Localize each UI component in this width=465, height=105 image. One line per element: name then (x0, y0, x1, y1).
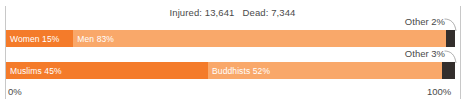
bar-segment-women[interactable]: Women 15% (6, 30, 73, 47)
axis-line-right (460, 6, 461, 99)
axis-label-max: 100% (427, 86, 451, 97)
bar-track-religion: Muslims 45% Buddhists 52% (6, 62, 455, 79)
bar-segment-buddhists[interactable]: Buddhists 52% (208, 62, 441, 79)
bar-segment-other-religion[interactable] (442, 62, 455, 79)
bar-segment-muslims[interactable]: Muslims 45% (6, 62, 208, 79)
bar-segment-men[interactable]: Men 83% (73, 30, 446, 47)
axis-line-left (5, 6, 6, 99)
bar-row-gender: Women 15% Men 83% (6, 30, 455, 47)
callout-other-gender: Other 2% (340, 16, 445, 27)
bar-row-religion: Muslims 45% Buddhists 52% (6, 62, 455, 79)
bar-segment-buddhists-label: Buddhists 52% (208, 66, 270, 76)
bar-segment-muslims-label: Muslims 45% (6, 66, 62, 76)
stacked-percentage-bar-chart: Injured: 13,641 Dead: 7,344 Women 15% Me… (0, 0, 465, 105)
callout-other-religion: Other 3% (340, 48, 445, 59)
bar-track-gender: Women 15% Men 83% (6, 30, 455, 47)
axis-label-min: 0% (8, 86, 22, 97)
bar-segment-other-gender[interactable] (446, 30, 455, 47)
bar-segment-men-label: Men 83% (73, 34, 114, 44)
bar-segment-women-label: Women 15% (6, 34, 59, 44)
